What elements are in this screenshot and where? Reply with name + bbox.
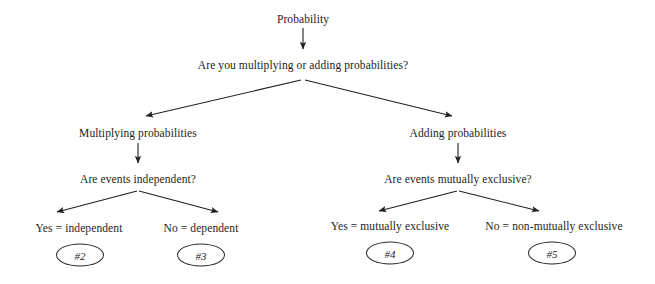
edge-mutually-exclusive-question-to-yes [379,191,457,211]
node-question-events-independent: Are events independent? [80,172,196,186]
badge-reference-3: #3 [177,244,225,267]
badge-reference-4: #4 [366,242,414,265]
node-question-multiply-or-add: Are you multiplying or adding probabilit… [198,58,408,72]
node-leaf-yes-mutually-exclusive: Yes = mutually exclusive [331,219,450,233]
node-question-events-mutually-exclusive: Are events mutually exclusive? [384,172,532,186]
edge-independent-question-to-no [139,191,218,212]
node-leaf-no-dependent: No = dependent [164,221,239,235]
edge-mutually-exclusive-question-to-no [459,191,539,211]
node-root-probability: Probability [277,12,329,26]
badge-reference-2: #2 [56,244,104,267]
probability-decision-tree-diagram: Probability Are you multiplying or addin… [0,0,655,284]
edge-question1-to-multiplying [146,80,301,116]
badge-reference-5: #5 [528,242,576,265]
node-leaf-yes-independent: Yes = independent [36,221,123,235]
edge-independent-question-to-yes [57,191,137,212]
node-adding-probabilities: Adding probabilities [410,126,507,140]
edge-question1-to-adding [305,80,452,116]
node-multiplying-probabilities: Multiplying probabilities [79,126,197,140]
node-leaf-no-non-mutually-exclusive: No = non-mutually exclusive [485,219,622,233]
